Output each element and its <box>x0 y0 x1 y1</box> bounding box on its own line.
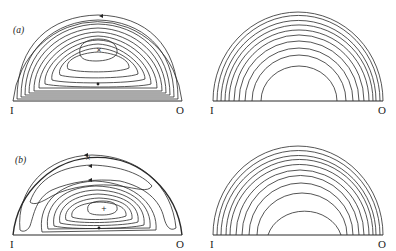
panel-a-right-contours: I O <box>210 12 386 116</box>
center-plus-marker: + <box>101 205 107 213</box>
outer-label: O <box>378 238 386 250</box>
panel-a-left-streamlines: (a) × I O <box>10 14 184 116</box>
outer-label: O <box>176 238 184 250</box>
inner-label: I <box>210 104 214 116</box>
inner-label: I <box>10 104 14 116</box>
inner-label: I <box>210 238 214 250</box>
panel-a-label: (a) <box>13 25 24 36</box>
center-x-marker: × <box>96 46 102 54</box>
panel-b-left-streamlines: (b) × + I O <box>10 153 184 250</box>
outer-label: O <box>176 104 184 116</box>
inner-label: I <box>10 238 14 250</box>
outer-label: O <box>378 104 386 116</box>
figure-canvas: (a) × I O I O <box>0 0 396 251</box>
panel-b-right-contours: I O <box>210 146 386 250</box>
secondary-x-marker: × <box>85 154 91 162</box>
panel-b-label: (b) <box>15 155 26 166</box>
